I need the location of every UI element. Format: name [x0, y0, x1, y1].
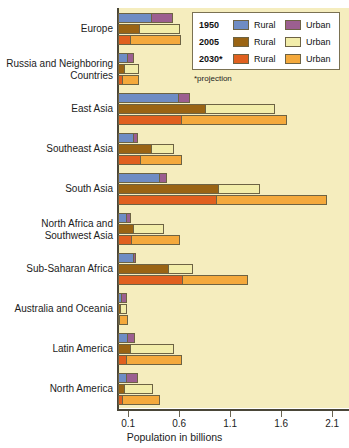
population-bar-chart: 0.10.61.11.62.1 EuropeRussia and Neighbo…: [0, 0, 349, 448]
x-tick-1: [179, 411, 180, 417]
bar-north-africa-and-southwest-asia-1950-urban: [127, 213, 131, 223]
category-label-south-asia: South Asia: [3, 183, 113, 195]
bar-southeast-asia-2030-rural: [118, 155, 141, 165]
bar-southeast-asia-2030-urban: [141, 155, 182, 165]
bar-sub-saharan-africa-2030-rural: [118, 275, 183, 285]
bar-southeast-asia-1950-rural: [118, 133, 134, 143]
bar-russia-and-neighboring-countries-2005-rural: [118, 64, 125, 74]
legend-row-2005: 2005 Rural Urban: [199, 35, 335, 49]
bar-sub-saharan-africa-2030-urban: [183, 275, 247, 285]
bar-russia-and-neighboring-countries-2005-urban: [125, 64, 139, 74]
legend-year-2005: 2005: [199, 35, 219, 49]
bar-latin-america-1950-urban: [128, 333, 135, 343]
bar-australia-and-oceania-2030-urban: [120, 315, 128, 325]
bar-southeast-asia-2005-urban: [152, 144, 174, 154]
bar-south-asia-2005-urban: [219, 184, 260, 194]
bar-europe-2005-rural: [118, 24, 140, 34]
legend-swatch-2030-urban: [285, 54, 301, 64]
category-label-east-asia: East Asia: [3, 103, 113, 115]
bar-latin-america-2030-rural: [118, 355, 127, 365]
bar-australia-and-oceania-2005-urban: [121, 304, 127, 314]
bar-south-asia-1950-rural: [118, 173, 160, 183]
bar-north-africa-and-southwest-asia-2005-rural: [118, 224, 134, 234]
x-tick-3: [281, 411, 282, 417]
x-tick-label-0: 0.1: [121, 418, 135, 429]
bar-east-asia-2030-urban: [182, 115, 287, 125]
x-tick-label-4: 2.1: [325, 418, 339, 429]
bar-east-asia-1950-rural: [118, 93, 179, 103]
x-tick-label-2: 1.1: [223, 418, 237, 429]
bar-south-asia-1950-urban: [160, 173, 167, 183]
category-label-europe: Europe: [3, 23, 113, 35]
legend-swatch-1950-rural: [233, 20, 249, 30]
bar-southeast-asia-1950-urban: [134, 133, 138, 143]
bar-east-asia-2030-rural: [118, 115, 182, 125]
category-label-north-africa-and-southwest-asia: North Africa and Southwest Asia: [3, 218, 113, 241]
x-tick-0: [128, 411, 129, 417]
bar-sub-saharan-africa-2005-urban: [169, 264, 193, 274]
bar-north-africa-and-southwest-asia-2030-rural: [118, 235, 132, 245]
legend-swatch-2005-rural: [233, 37, 249, 47]
bar-north-africa-and-southwest-asia-1950-rural: [118, 213, 127, 223]
legend-label-2030-rural: Rural: [254, 52, 276, 66]
bar-north-america-1950-urban: [127, 373, 138, 383]
legend-year-1950: 1950: [199, 18, 219, 32]
bar-europe-2005-urban: [140, 24, 180, 34]
bar-north-america-2005-urban: [125, 384, 153, 394]
x-axis-title: Population in billions: [0, 431, 349, 443]
legend-swatch-1950-urban: [285, 20, 301, 30]
bar-latin-america-2005-rural: [118, 344, 131, 354]
bar-east-asia-2005-rural: [118, 104, 206, 114]
category-label-latin-america: Latin America: [3, 343, 113, 355]
legend-swatch-2030-rural: [233, 54, 249, 64]
category-label-australia-and-oceania: Australia and Oceania: [3, 303, 113, 315]
bar-east-asia-1950-urban: [179, 93, 190, 103]
x-tick-label-1: 0.6: [172, 418, 186, 429]
bar-north-america-2005-rural: [118, 384, 125, 394]
bar-southeast-asia-2005-rural: [118, 144, 152, 154]
category-label-sub-saharan-africa: Sub-Saharan Africa: [3, 263, 113, 275]
bar-russia-and-neighboring-countries-2030-urban: [123, 75, 139, 85]
legend-label-1950-urban: Urban: [306, 18, 331, 32]
legend-label-1950-rural: Rural: [254, 18, 276, 32]
bar-sub-saharan-africa-1950-urban: [134, 253, 136, 263]
category-label-north-america: North America: [3, 383, 113, 395]
bar-east-asia-2005-urban: [206, 104, 275, 114]
legend-row-2030: 2030* Rural Urban: [199, 52, 335, 66]
legend-year-2030: 2030*: [199, 52, 223, 66]
category-label-russia-and-neighboring-countries: Russia and Neighboring Countries: [3, 58, 113, 81]
legend-label-2005-urban: Urban: [306, 35, 331, 49]
bar-sub-saharan-africa-2005-rural: [118, 264, 169, 274]
x-tick-4: [332, 411, 333, 417]
bar-russia-and-neighboring-countries-1950-rural: [118, 53, 128, 63]
chart-legend: 1950 Rural Urban 2005 Rural Urban 2030* …: [192, 12, 340, 70]
bar-europe-1950-rural: [118, 13, 152, 23]
bar-north-america-2030-urban: [123, 395, 160, 405]
bar-north-africa-and-southwest-asia-2005-urban: [134, 224, 164, 234]
bar-south-asia-2005-rural: [118, 184, 219, 194]
bar-latin-america-2005-urban: [131, 344, 174, 354]
projection-note: *projection: [194, 74, 232, 83]
bar-europe-1950-urban: [152, 13, 173, 23]
x-tick-label-3: 1.6: [274, 418, 288, 429]
bar-australia-and-oceania-1950-urban: [122, 293, 127, 303]
bar-sub-saharan-africa-1950-rural: [118, 253, 134, 263]
bar-north-america-1950-rural: [118, 373, 127, 383]
bar-latin-america-2030-urban: [127, 355, 182, 365]
bar-north-africa-and-southwest-asia-2030-urban: [132, 235, 180, 245]
legend-swatch-2005-urban: [285, 37, 301, 47]
bar-south-asia-2030-rural: [118, 195, 217, 205]
legend-row-1950: 1950 Rural Urban: [199, 18, 335, 32]
legend-label-2005-rural: Rural: [254, 35, 276, 49]
bar-latin-america-1950-rural: [118, 333, 128, 343]
category-label-southeast-asia: Southeast Asia: [3, 143, 113, 155]
legend-label-2030-urban: Urban: [306, 52, 331, 66]
bar-europe-2030-urban: [131, 35, 181, 45]
bar-south-asia-2030-urban: [217, 195, 327, 205]
x-axis-line: [117, 409, 349, 411]
bar-europe-2030-rural: [118, 35, 131, 45]
x-tick-2: [230, 411, 231, 417]
bar-russia-and-neighboring-countries-1950-urban: [128, 53, 134, 63]
